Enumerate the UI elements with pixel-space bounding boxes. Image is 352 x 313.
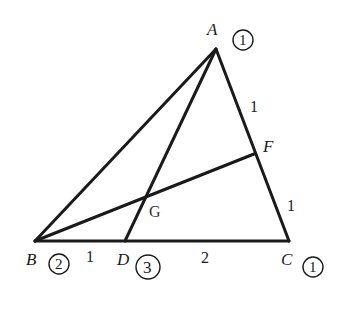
length-label-bd: 1 (86, 248, 94, 265)
segment-ad (125, 49, 216, 241)
length-label-dc: 2 (201, 249, 209, 266)
vertex-label-a: A (206, 20, 218, 39)
length-label-fc: 1 (287, 197, 295, 214)
segment-ab (35, 49, 216, 241)
point-label-f: F (262, 137, 274, 156)
triangle-diagram: A 1 B 2 D 3 C 1 F G 1 2 1 1 (0, 0, 352, 313)
segment-ac (216, 49, 289, 241)
vertex-label-c: C (281, 250, 293, 269)
mass-weight-d: 3 (143, 258, 152, 277)
point-label-g: G (149, 203, 161, 220)
length-label-af: 1 (250, 98, 258, 115)
vertex-label-d: D (116, 250, 130, 269)
vertex-label-b: B (26, 250, 37, 269)
mass-weight-c: 1 (309, 259, 317, 275)
mass-weight-a: 1 (239, 32, 247, 48)
segment-bf (35, 154, 254, 241)
mass-weight-b: 2 (55, 256, 63, 272)
